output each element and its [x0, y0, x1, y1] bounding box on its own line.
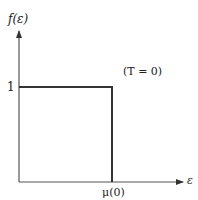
y-tick-label-one: 1 — [7, 81, 15, 93]
diagram-canvas — [0, 0, 198, 200]
x-axis-label: ε — [187, 175, 193, 186]
temperature-annotation: (T = 0) — [123, 66, 162, 77]
y-axis-label: f(ε) — [8, 13, 28, 25]
x-tick-label-mu: μ(0) — [102, 187, 125, 198]
fermi-dirac-step-diagram: f(ε) 1 (T = 0) μ(0) ε — [0, 0, 198, 200]
